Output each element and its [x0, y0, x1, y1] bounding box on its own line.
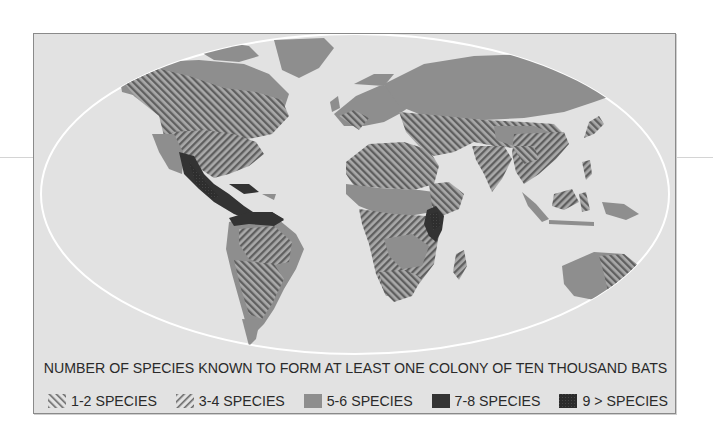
legend-item-1-2: 1-2 SPECIES	[48, 393, 157, 409]
legend-label: 5-6 SPECIES	[327, 393, 413, 409]
north-america	[119, 38, 334, 226]
legend-label: 1-2 SPECIES	[71, 393, 157, 409]
textured-dark-swatch-icon	[559, 394, 577, 408]
legend-label: 7-8 SPECIES	[455, 393, 541, 409]
map-title: NUMBER OF SPECIES KNOWN TO FORM AT LEAST…	[34, 360, 677, 376]
solid-dark-swatch-icon	[432, 394, 450, 408]
legend-label: 9 > SPECIES	[582, 393, 668, 409]
south-america	[226, 212, 304, 346]
world-map	[34, 34, 677, 415]
legend-item-9-plus: 9 > SPECIES	[559, 393, 668, 409]
map-frame: NUMBER OF SPECIES KNOWN TO FORM AT LEAST…	[33, 33, 676, 414]
legend-item-5-6: 5-6 SPECIES	[304, 393, 413, 409]
legend-label: 3-4 SPECIES	[199, 393, 285, 409]
legend-item-3-4: 3-4 SPECIES	[176, 393, 285, 409]
hatch-back-swatch-icon	[176, 394, 194, 408]
legend-item-7-8: 7-8 SPECIES	[432, 393, 541, 409]
solid-gray-swatch-icon	[304, 394, 322, 408]
legend: 1-2 SPECIES 3-4 SPECIES 5-6 SPECIES 7-8 …	[48, 390, 668, 412]
hatch-forward-swatch-icon	[48, 394, 66, 408]
australia	[562, 252, 666, 324]
africa	[346, 142, 467, 302]
